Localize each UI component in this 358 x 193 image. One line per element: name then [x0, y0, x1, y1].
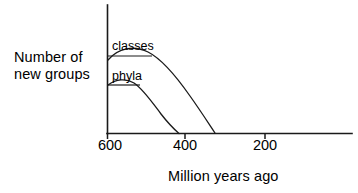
x-tick-label-200: 200 — [243, 137, 287, 154]
series-label-classes: classes — [112, 39, 154, 54]
x-axis-title: Million years ago — [168, 168, 279, 185]
y-axis-title: Number of new groups — [14, 49, 90, 83]
curve-phyla — [108, 80, 179, 134]
curve-classes — [108, 48, 215, 133]
x-tick-label-400: 400 — [163, 137, 207, 154]
plot-area — [0, 0, 358, 193]
series-label-phyla: phyla — [112, 69, 142, 84]
x-tick-label-600: 600 — [88, 137, 132, 154]
chart-figure: Number of new groups classes phyla 600 4… — [0, 0, 358, 193]
